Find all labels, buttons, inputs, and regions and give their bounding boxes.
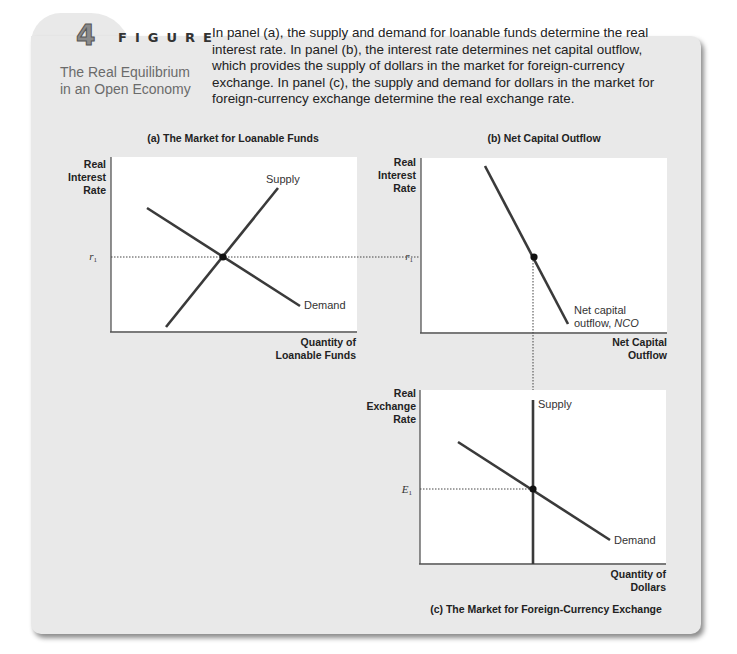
nco-label-2: outflow, NCO (574, 317, 639, 329)
panel-a-ylabel-3: Rate (83, 184, 106, 196)
dollar-supply-label: Supply (538, 398, 572, 410)
panel-a-ylabel-2: Interest (68, 171, 106, 183)
panel-a-equilibrium-point (219, 253, 226, 260)
panel-b-ylabel-3: Rate (393, 182, 416, 194)
panel-c-equilibrium-point (529, 485, 536, 492)
panel-c-ylabel-2: Exchange (366, 400, 416, 412)
dollar-demand-label: Demand (614, 534, 656, 546)
panel-c-title: (c) The Market for Foreign-Currency Exch… (430, 603, 662, 615)
loanable-supply-label: Supply (266, 173, 300, 185)
loanable-demand-label: Demand (304, 299, 346, 311)
panel-a-r1-label: r1 (89, 250, 97, 264)
panel-c-xlabel-2: Dollars (630, 581, 666, 593)
panel-b-ylabel-1: Real (394, 156, 416, 168)
nco-label-1: Net capital (574, 304, 626, 316)
panel-b-title: (b) Net Capital Outflow (487, 132, 601, 144)
panel-c: Real Exchange Rate Quantity of Dollars (… (366, 387, 666, 615)
panel-b-equilibrium-point (530, 253, 537, 260)
panel-a-xlabel-1: Quantity of (301, 336, 357, 348)
panel-a-xlabel-2: Loanable Funds (275, 349, 356, 361)
panel-b-ylabel-2: Interest (378, 169, 416, 181)
panel-b-r1-label: r1 (405, 250, 413, 264)
panel-a-title: (a) The Market for Loanable Funds (147, 132, 319, 144)
panel-a: (a) The Market for Loanable Funds Real I… (68, 132, 420, 361)
panel-b-plot-area (421, 158, 667, 332)
panel-b-xlabel-1: Net Capital (612, 336, 667, 348)
figure-charts: (a) The Market for Loanable Funds Real I… (0, 0, 737, 654)
panel-c-e1-label: E1 (401, 483, 413, 497)
panel-a-ylabel-1: Real (84, 158, 106, 170)
panel-b-xlabel-2: Outflow (628, 349, 668, 361)
panel-c-ylabel-3: Rate (393, 413, 416, 425)
panel-c-ylabel-1: Real (394, 387, 416, 399)
panel-b: (b) Net Capital Outflow Real Interest Ra… (378, 132, 668, 400)
panel-c-xlabel-1: Quantity of (611, 568, 667, 580)
